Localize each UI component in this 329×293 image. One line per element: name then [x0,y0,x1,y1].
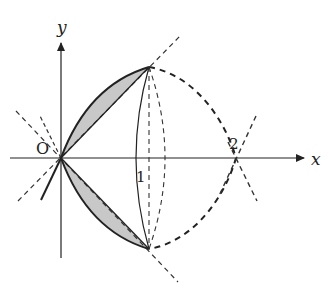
tick-label-two: 2 [229,135,239,153]
dashed-line-y-equals-neg-x [16,111,178,282]
diagram-canvas: y x O 1 2 [0,0,329,293]
y-axis-label: y [56,17,67,37]
x-axis-label: x [311,149,321,169]
solid-extension-lower-left [41,158,61,200]
tick-label-one: 1 [136,168,146,186]
origin-label: O [36,139,49,158]
